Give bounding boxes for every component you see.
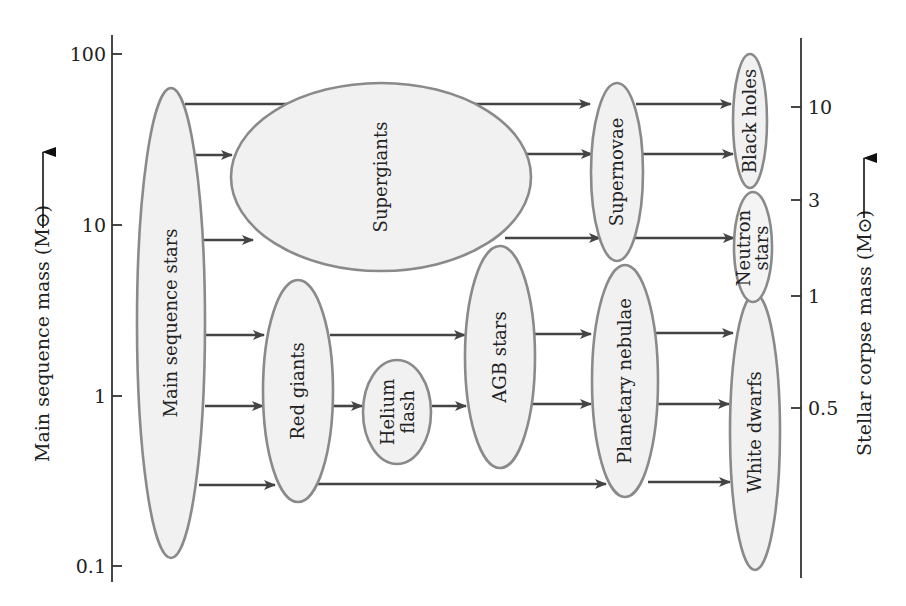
left-tick-label: 10	[82, 214, 106, 236]
stellar-evolution-diagram: 100 10 1 0.1 Main sequence mass (M⊙) 10 …	[0, 0, 906, 606]
node-label: Helium	[377, 379, 398, 446]
left-axis-title: Main sequence mass (M⊙)	[31, 205, 53, 462]
node-label: Supernovae	[606, 118, 627, 227]
node-red-giants: Red giants	[263, 280, 333, 502]
right-axis: 10 3 1 0.5 Stellar corpse mass (M⊙)	[791, 38, 875, 578]
node-agb-stars: AGB stars	[465, 246, 535, 468]
right-tick-label: 3	[808, 189, 820, 211]
node-black-holes: Black holes	[733, 54, 767, 188]
node-label: AGB stars	[489, 311, 510, 403]
node-label: Supergiants	[370, 122, 391, 233]
right-axis-title: Stellar corpse mass (M⊙)	[853, 210, 875, 456]
left-tick-label: 0.1	[76, 555, 106, 577]
node-label: Main sequence stars	[160, 229, 181, 418]
right-tick-label: 0.5	[808, 397, 838, 419]
node-main-sequence-stars: Main sequence stars	[137, 88, 205, 558]
node-supergiants: Supergiants	[231, 83, 531, 271]
node-label: Black holes	[739, 69, 760, 174]
node-supernovae: Supernovae	[591, 83, 643, 261]
node-label: stars	[751, 225, 772, 270]
right-tick-label: 10	[808, 96, 832, 118]
node-label: Red giants	[287, 342, 308, 440]
node-helium-flash: Helium flash	[363, 360, 431, 464]
node-label: Planetary nebulae	[614, 298, 635, 464]
left-axis: 100 10 1 0.1 Main sequence mass (M⊙)	[31, 35, 122, 582]
node-neutron-stars: Neutron stars	[733, 192, 772, 302]
node-white-dwarfs: White dwarfs	[730, 294, 780, 570]
node-planetary-nebulae: Planetary nebulae	[592, 265, 658, 497]
node-label: White dwarfs	[744, 371, 765, 493]
left-tick-label: 1	[94, 385, 106, 407]
left-tick-label: 100	[70, 43, 106, 65]
node-label: flash	[397, 390, 418, 434]
right-tick-label: 1	[808, 285, 820, 307]
